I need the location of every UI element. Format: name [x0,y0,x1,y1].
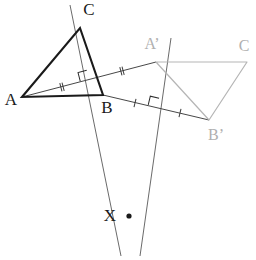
intersection-point-X [126,213,131,218]
vertex-label-B: B [101,98,112,117]
perpendicular-bisector-of-BB-prime [140,38,171,256]
vertex-label-C: C [83,0,94,19]
geometry-figure: A B C A’ B’ C X [0,0,256,260]
vertex-label-C-prime: C [239,37,250,54]
segment-B-to-B-prime [103,95,209,120]
vertex-label-A-prime: A’ [144,35,159,52]
vertex-label-A: A [5,90,18,109]
figure-canvas: A B C A’ B’ C X [0,0,256,260]
vertex-label-B-prime: B’ [208,126,224,143]
triangle-A-prime-B-prime-C-prime [156,62,247,120]
right-angle-markers [78,70,159,107]
right-angle-marker-BB-prime [148,96,159,107]
vertex-label-X: X [104,206,116,225]
segment-A-to-A-prime [22,62,156,97]
